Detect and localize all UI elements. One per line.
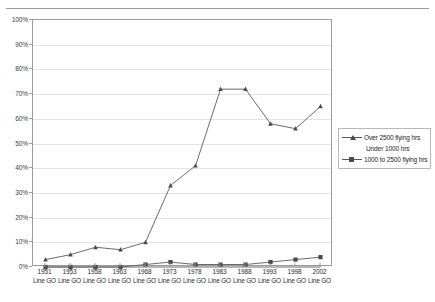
x-axis-sub-label: Line GO [308,276,331,285]
x-axis-tick-group: 2002Line GO [308,267,331,285]
x-axis-year-label: 2002 [308,267,331,276]
legend-label: Under 1000 hrs [366,144,409,153]
x-axis-sub-label: Line GO [58,276,81,285]
title-divider [6,8,429,9]
x-axis-year-label: 1993 [258,267,281,276]
x-axis-tick-group: 1988Line GO [233,267,256,285]
x-axis: 1951Line GO1953Line GO1958Line GO1963Lin… [32,267,332,301]
chart-legend: Over 2500 flying hrsUnder 1000 hrs1000 t… [338,128,431,169]
legend-label: Over 2500 flying hrs [364,133,420,142]
square-marker-icon [318,255,322,259]
triangle-marker-icon [350,135,356,140]
x-axis-year-label: 1998 [283,267,306,276]
x-axis-year-label: 1978 [183,267,206,276]
series-line [46,89,321,259]
square-marker-icon [349,157,354,162]
x-axis-sub-label: Line GO [183,276,206,285]
x-axis-sub-label: Line GO [108,276,131,285]
legend-key [342,133,362,142]
legend-item: Under 1000 hrs [342,143,426,154]
y-axis-tick-label: 40% [15,164,28,171]
chart-page: Proportion of pilots by flying hours exp… [0,0,435,302]
triangle-marker-icon [93,245,98,249]
x-axis-year-label: 1973 [158,267,181,276]
y-axis-tick-label: 90% [15,40,28,47]
x-axis-sub-label: Line GO [33,276,56,285]
y-axis-tick-label: 10% [15,238,28,245]
x-axis-tick-group: 1973Line GO [158,267,181,285]
y-axis-tick-label: 70% [15,90,28,97]
plot-area [32,19,332,266]
legend-key [342,144,362,153]
triangle-marker-icon [168,183,173,187]
series-layer [33,20,333,267]
x-axis-year-label: 1953 [58,267,81,276]
x-axis-tick-group: 1998Line GO [283,267,306,285]
triangle-marker-icon [143,240,148,244]
x-axis-sub-label: Line GO [233,276,256,285]
y-axis-tick-label: 50% [15,139,28,146]
legend-item: 1000 to 2500 flying hrs [342,154,426,165]
x-axis-sub-label: Line GO [208,276,231,285]
x-axis-tick-group: 1963Line GO [108,267,131,285]
triangle-marker-icon [318,104,323,108]
x-axis-tick-group: 1951Line GO [33,267,56,285]
data-series [43,87,323,262]
triangle-marker-icon [193,163,198,167]
x-axis-tick-group: 1958Line GO [83,267,106,285]
y-axis-tick-label: 0% [19,263,28,270]
x-axis-year-label: 1968 [133,267,156,276]
y-axis-tick-label: 80% [15,65,28,72]
y-axis-tick-label: 100% [12,16,28,23]
y-axis-tick-label: 60% [15,114,28,121]
x-axis-tick-group: 1968Line GO [133,267,156,285]
legend-key [342,155,362,164]
x-axis-tick-group: 1993Line GO [258,267,281,285]
y-axis: 0%10%20%30%40%50%60%70%80%90%100% [0,19,32,266]
x-axis-tick-group: 1978Line GO [183,267,206,285]
y-axis-tick-label: 20% [15,213,28,220]
x-axis-sub-label: Line GO [258,276,281,285]
x-axis-year-label: 1963 [108,267,131,276]
x-axis-tick-group: 1953Line GO [58,267,81,285]
x-axis-tick-group: 1983Line GO [208,267,231,285]
legend-label: 1000 to 2500 flying hrs [364,155,427,164]
x-axis-year-label: 1983 [208,267,231,276]
x-axis-year-label: 1958 [83,267,106,276]
x-axis-sub-label: Line GO [158,276,181,285]
x-axis-year-label: 1951 [33,267,56,276]
x-axis-sub-label: Line GO [283,276,306,285]
x-axis-sub-label: Line GO [83,276,106,285]
x-axis-year-label: 1988 [233,267,256,276]
y-axis-tick-label: 30% [15,188,28,195]
square-marker-icon [293,257,297,261]
x-axis-sub-label: Line GO [133,276,156,285]
series-line [46,257,321,267]
legend-item: Over 2500 flying hrs [342,132,426,143]
